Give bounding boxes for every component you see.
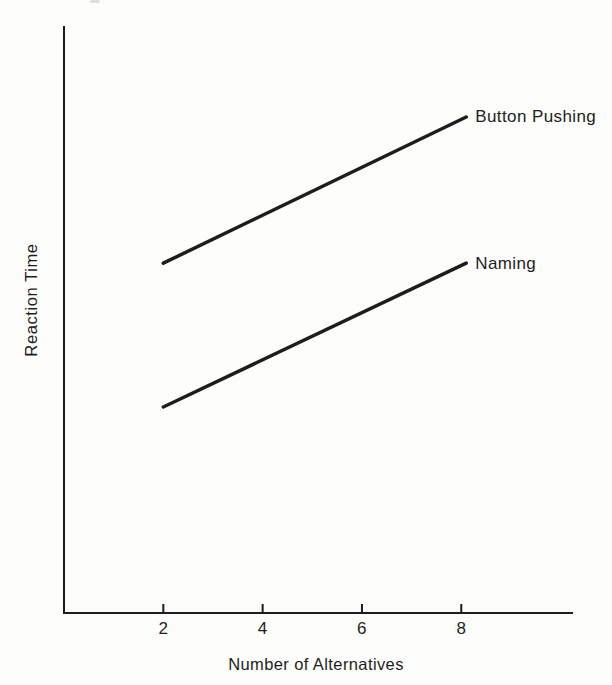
x-tick-label-6: 6 [357, 619, 367, 638]
x-tick-label-4: 4 [258, 619, 268, 638]
y-axis-label: Reaction Time [22, 243, 41, 356]
x-tick-label-8: 8 [456, 619, 466, 638]
series-line-button-pushing [163, 117, 466, 263]
x-axis-label: Number of Alternatives [228, 655, 404, 674]
chart-canvas: 2468Button PushingNaming [0, 0, 612, 685]
series-line-naming [163, 263, 466, 407]
series-label-button-pushing: Button Pushing [475, 107, 596, 126]
reaction-time-figure: 2468Button PushingNaming Reaction Time N… [0, 0, 612, 685]
series-label-naming: Naming [475, 254, 536, 273]
x-tick-label-2: 2 [158, 619, 168, 638]
